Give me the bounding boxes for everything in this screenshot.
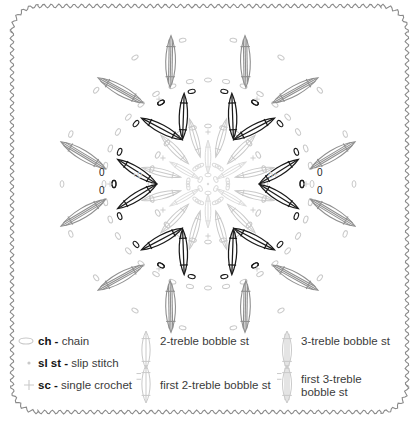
legend-label: 3-treble bobble st [301, 335, 391, 347]
legend-label: ch - chain [38, 335, 89, 347]
crochet-pattern-page: +00+0000 ch - chainsl st - slip stitchsc… [0, 0, 419, 430]
chart-mark: 0 [317, 167, 323, 178]
legend-label: sc - single crochet [38, 379, 133, 391]
chart-mark: +0 [132, 170, 142, 180]
legend-label: sl st - slip stitch [38, 357, 119, 369]
chart-mark: 0+ [268, 170, 278, 180]
diagram-canvas: +00+0000 ch - chainsl st - slip stitchsc… [0, 0, 419, 430]
slip-stitch-dot-icon [27, 361, 30, 364]
chart-mark: 0 [317, 185, 323, 196]
legend-label: first 2-treble bobble st [160, 379, 271, 391]
chart-mark: 0 [99, 185, 105, 196]
legend-label: 2-treble bobble st [160, 335, 250, 347]
chart-mark: 0 [99, 167, 105, 178]
